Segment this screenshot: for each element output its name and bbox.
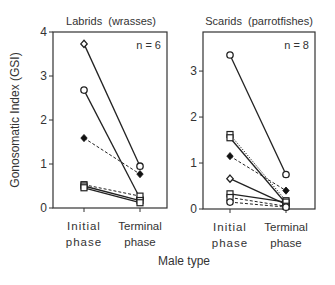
- marker-open-circle: [137, 163, 143, 169]
- marker-open-square: [137, 200, 143, 206]
- panel-scarids: Scarids (parrotfishes) n = 8 0123Initial…: [190, 15, 315, 249]
- y-tick-label: 3: [40, 69, 47, 83]
- marker-filled-diamond: [137, 171, 143, 178]
- series-line: [230, 156, 286, 190]
- marker-filled-diamond: [81, 134, 87, 141]
- panel-labrids: Labrids (wrasses) n = 6 01234Initialphas…: [40, 15, 167, 248]
- y-tick-label: 3: [190, 64, 197, 78]
- series-line: [230, 198, 286, 207]
- figure: Gonosomatic Index (GSI) Male type Labrid…: [0, 0, 335, 285]
- series-line: [230, 138, 286, 204]
- series-species-3: [227, 135, 289, 207]
- y-tick-label: 4: [40, 25, 47, 39]
- panel-title: Labrids (wrasses): [66, 15, 156, 27]
- marker-filled-diamond: [227, 153, 233, 160]
- y-tick-label: 1: [40, 157, 47, 171]
- series-species-1: [227, 52, 289, 178]
- x-axis-label: Male type: [158, 254, 210, 268]
- series-species-3: [81, 134, 143, 177]
- x-tick-label: phase: [212, 237, 248, 249]
- x-tick-label: phase: [66, 236, 102, 248]
- marker-open-square: [81, 185, 87, 191]
- marker-open-circle: [283, 204, 289, 210]
- panel-title: Scarids (parrotfishes): [205, 15, 313, 27]
- marker-filled-diamond: [283, 187, 289, 194]
- marker-open-circle: [81, 87, 87, 93]
- y-tick-label: 2: [40, 113, 47, 127]
- y-tick-label: 1: [190, 156, 197, 170]
- marker-open-diamond: [81, 40, 87, 47]
- marker-open-circle: [227, 52, 233, 58]
- x-tick-label: phase: [124, 236, 155, 248]
- series-line: [84, 186, 140, 201]
- x-tick-label: phase: [270, 237, 301, 249]
- series-species-2: [227, 132, 289, 204]
- series-species-1: [81, 40, 143, 169]
- series-line: [230, 55, 286, 175]
- plot-frame: [203, 32, 315, 209]
- x-tick-label: Initial: [213, 221, 247, 233]
- series-line: [84, 188, 140, 203]
- y-tick-label: 2: [190, 110, 197, 124]
- marker-open-square: [227, 135, 233, 141]
- series-species-4: [227, 153, 289, 195]
- plot-frame: [53, 32, 167, 208]
- x-tick-label: Initial: [67, 220, 101, 232]
- y-tick-label: 0: [190, 202, 197, 216]
- marker-open-circle: [227, 199, 233, 205]
- sample-size-annotation: n = 6: [136, 39, 161, 51]
- y-axis-label: Gonosomatic Index (GSI): [8, 52, 22, 187]
- x-tick-label: Terminal: [118, 220, 161, 232]
- sample-size-annotation: n = 8: [284, 39, 309, 51]
- series-line: [230, 194, 286, 202]
- marker-open-diamond: [227, 175, 233, 182]
- series-line: [230, 202, 286, 207]
- series-line: [230, 135, 286, 201]
- marker-open-circle: [283, 171, 289, 177]
- y-tick-label: 0: [40, 201, 47, 215]
- series-species-4: [81, 182, 143, 199]
- x-tick-label: Terminal: [264, 221, 307, 233]
